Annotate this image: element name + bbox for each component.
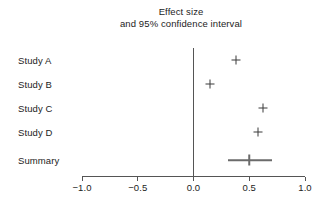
x-axis-tick-1 [137,177,138,181]
point-marker-study-c [258,104,267,113]
row-label-study-c: Study C [18,103,53,114]
point-marker-study-a [231,56,240,65]
row-label-study-d: Study D [18,127,53,138]
row-label-study-b: Study B [18,79,52,90]
x-axis-tick-2 [193,177,194,181]
forest-plot-figure: Effect size and 95% confidence interval … [0,0,326,209]
x-axis-tick-label-1: −0.5 [128,182,147,193]
row-label-study-a: Study A [18,55,51,66]
point-marker-study-d [254,128,263,137]
point-marker-study-b [206,80,215,89]
summary-estimate-tick [249,155,251,166]
plot-area: Study AStudy BStudy CStudy DSummary−1.0−… [0,0,326,209]
x-axis-tick-4 [305,177,306,181]
x-axis-tick-label-3: 0.5 [242,182,256,193]
x-axis-tick-label-2: 0.0 [187,182,201,193]
x-axis-tick-label-4: 1.0 [298,182,312,193]
x-axis-tick-0 [82,177,83,181]
zero-reference-line [193,48,194,176]
row-label-summary: Summary [18,155,59,166]
x-axis-tick-label-0: −1.0 [72,182,91,193]
x-axis-tick-3 [249,177,250,181]
